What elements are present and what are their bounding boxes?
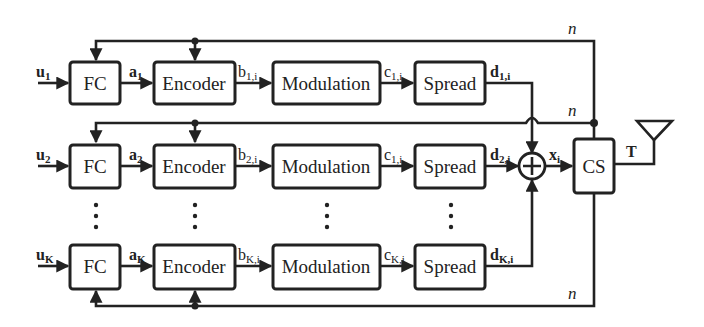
fc-output-label: a2	[129, 146, 143, 165]
feedback-label-mid: n	[568, 101, 577, 120]
ellipsis-spread	[449, 203, 453, 229]
modulation-output-label: cK,i	[384, 246, 405, 265]
fc-block-label: FC	[83, 256, 106, 277]
modulation-output-label: c1,i	[384, 146, 402, 165]
spread-output-label: d2,i	[490, 146, 510, 165]
spread-output-label: dK,i	[490, 246, 513, 265]
encoder-output-label: bK,i	[238, 246, 260, 265]
feedback-label-top: n	[568, 19, 577, 38]
modulation-block-label: Modulation	[282, 156, 371, 177]
user-row-2: u2 FC a2 Encoder b2,i Modulation c1,i Sp…	[36, 145, 518, 188]
spread-block-label: Spread	[424, 73, 477, 94]
antenna-icon	[637, 121, 672, 140]
cs-output-label: T	[626, 143, 637, 160]
junction-dot	[192, 38, 199, 45]
spread-output-label: d1,i	[490, 63, 510, 82]
feedback-line-row2: n	[96, 101, 598, 142]
encoder-block-label: Encoder	[162, 256, 226, 277]
encoder-output-label: b1,i	[238, 63, 257, 82]
junction-dot	[590, 119, 598, 127]
fc-block-label: FC	[83, 73, 106, 94]
ellipsis-fc	[94, 203, 98, 229]
ellipsis-dots	[94, 203, 453, 229]
sum-output-label: xi	[549, 146, 560, 165]
transmitter-block-diagram: n n n u1 FC a1 Encoder b1,i Modulation c…	[0, 0, 704, 327]
modulation-output-label: c1,i	[384, 63, 402, 82]
junction-dot	[192, 120, 199, 127]
modulation-block-label: Modulation	[282, 256, 371, 277]
modulation-block-label: Modulation	[282, 73, 371, 94]
encoder-block-label: Encoder	[162, 73, 226, 94]
encoder-output-label: b2,i	[238, 146, 257, 165]
fc-block-label: FC	[83, 156, 106, 177]
input-label: uK	[36, 246, 54, 265]
ellipsis-modulation	[325, 203, 329, 229]
spread-block-label: Spread	[424, 256, 477, 277]
encoder-block-label: Encoder	[162, 156, 226, 177]
fc-output-label: a1	[129, 63, 143, 82]
cs-block-label: CS	[582, 156, 605, 177]
input-label: u2	[36, 146, 51, 165]
ellipsis-encoder	[193, 203, 197, 229]
junction-dot	[192, 303, 199, 310]
summation-node	[519, 153, 545, 179]
user-row-1: u1 FC a1 Encoder b1,i Modulation c1,i Sp…	[36, 62, 532, 153]
feedback-label-bottom: n	[568, 284, 577, 303]
user-row-K: uK FC aK Encoder bK,i Modulation cK,i Sp…	[36, 180, 532, 289]
input-label: u1	[36, 63, 50, 82]
fc-output-label: aK	[129, 246, 146, 265]
spread-block-label: Spread	[424, 156, 477, 177]
